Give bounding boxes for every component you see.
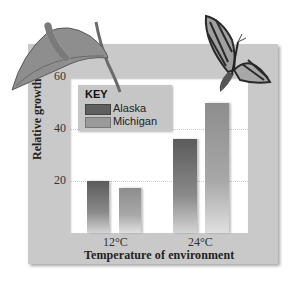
bar-alaska-12c: [87, 181, 109, 233]
legend-label-alaska: Alaska: [113, 102, 146, 114]
legend-label-michigan: Michigan: [113, 115, 157, 127]
butterfly-icon: [198, 12, 274, 98]
caterpillar-leaf-icon: [8, 14, 123, 94]
x-axis-label: Temperature of environment: [84, 248, 234, 263]
y-tick-20: 20: [44, 173, 66, 188]
bar-alaska-24c: [173, 139, 197, 233]
legend-swatch-michigan: [85, 117, 111, 128]
legend-swatch-alaska: [85, 104, 111, 115]
bar-michigan-12c: [119, 188, 141, 233]
bar-michigan-24c: [205, 103, 229, 233]
y-tick-40: 40: [44, 121, 66, 136]
